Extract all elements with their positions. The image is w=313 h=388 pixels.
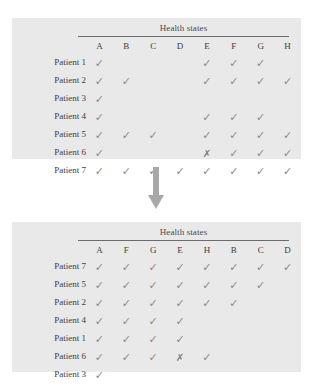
cell-empty <box>140 143 167 161</box>
column-header-e: E <box>167 242 194 257</box>
cell-check: ✓ <box>194 293 221 311</box>
row-label: Patient 3 <box>12 365 86 383</box>
cell-check: ✓ <box>86 329 113 347</box>
cross-icon: ✗ <box>203 149 211 159</box>
check-icon: ✓ <box>283 76 292 87</box>
table-body: Patient 1✓✓✓✓Patient 2✓✓✓✓✓✓Patient 3✓Pa… <box>12 53 301 179</box>
check-icon: ✓ <box>229 130 238 141</box>
check-icon: ✓ <box>122 352 131 363</box>
cell-check: ✓ <box>140 311 167 329</box>
cell-empty <box>247 293 274 311</box>
cell-empty <box>247 89 274 107</box>
cell-check: ✓ <box>86 257 113 275</box>
cell-empty <box>194 365 221 383</box>
cell-check: ✓ <box>274 71 301 89</box>
cell-check: ✓ <box>274 125 301 143</box>
check-icon: ✓ <box>256 130 265 141</box>
check-icon: ✓ <box>122 316 131 327</box>
cell-check: ✓ <box>247 107 274 125</box>
check-icon: ✓ <box>229 280 238 291</box>
check-icon: ✓ <box>175 262 184 273</box>
check-icon: ✓ <box>202 352 211 363</box>
cell-check: ✓ <box>194 53 221 71</box>
column-header-d: D <box>167 38 194 53</box>
cell-check: ✓ <box>86 89 113 107</box>
table-row: Patient 2✓✓✓✓✓✓ <box>12 293 301 311</box>
cell-check: ✓ <box>86 143 113 161</box>
column-header-g: G <box>247 38 274 53</box>
column-header-c: C <box>140 38 167 53</box>
check-icon: ✓ <box>95 112 104 123</box>
row-label: Patient 4 <box>12 107 86 125</box>
cell-check: ✓ <box>167 275 194 293</box>
cell-check: ✓ <box>113 311 140 329</box>
check-icon: ✓ <box>283 130 292 141</box>
table-row: Patient 6✓✓✓✗✓ <box>12 347 301 365</box>
check-icon: ✓ <box>256 112 265 123</box>
check-icon: ✓ <box>95 280 104 291</box>
matrix-after: Health states AFGEHBCD Patient 7✓✓✓✓✓✓✓✓… <box>12 222 301 372</box>
table-head: AFGEHBCD <box>12 242 301 257</box>
check-icon: ✓ <box>149 334 158 345</box>
check-icon: ✓ <box>149 280 158 291</box>
cell-empty <box>167 89 194 107</box>
table-row: Patient 3✓ <box>12 89 301 107</box>
column-header-a: A <box>86 242 113 257</box>
check-icon: ✓ <box>175 334 184 345</box>
table-row: Patient 2✓✓✓✓✓✓ <box>12 71 301 89</box>
cell-check: ✓ <box>274 143 301 161</box>
cell-empty <box>274 365 301 383</box>
cell-check: ✓ <box>140 257 167 275</box>
arrow-down-icon <box>0 165 313 215</box>
cell-check: ✓ <box>220 143 247 161</box>
check-icon: ✓ <box>229 58 238 69</box>
cell-check: ✓ <box>167 329 194 347</box>
check-icon: ✓ <box>175 298 184 309</box>
cell-empty <box>220 89 247 107</box>
cell-empty <box>274 89 301 107</box>
cell-check: ✓ <box>247 71 274 89</box>
cell-check: ✓ <box>220 257 247 275</box>
cell-empty <box>113 107 140 125</box>
cell-empty <box>247 311 274 329</box>
row-label: Patient 5 <box>12 125 86 143</box>
matrix-panel-before: Health states ABCDEFGH Patient 1✓✓✓✓Pati… <box>12 18 301 159</box>
check-icon: ✓ <box>283 148 292 159</box>
cell-check: ✓ <box>220 71 247 89</box>
matrix-before: Health states ABCDEFGH Patient 1✓✓✓✓Pati… <box>12 18 301 159</box>
cell-empty <box>274 329 301 347</box>
table-head: ABCDEFGH <box>12 38 301 53</box>
cell-check: ✓ <box>247 257 274 275</box>
cell-empty <box>274 311 301 329</box>
cell-check: ✓ <box>140 275 167 293</box>
cell-empty <box>113 365 140 383</box>
check-icon: ✓ <box>95 130 104 141</box>
check-icon: ✓ <box>202 280 211 291</box>
row-label-header <box>12 38 86 53</box>
row-label: Patient 4 <box>12 311 86 329</box>
check-icon: ✓ <box>95 334 104 345</box>
cell-check: ✓ <box>86 293 113 311</box>
check-icon: ✓ <box>95 148 104 159</box>
check-icon: ✓ <box>149 298 158 309</box>
cell-empty <box>167 143 194 161</box>
cell-check: ✓ <box>194 275 221 293</box>
check-icon: ✓ <box>95 76 104 87</box>
cell-check: ✓ <box>86 53 113 71</box>
check-icon: ✓ <box>229 76 238 87</box>
cell-check: ✓ <box>220 107 247 125</box>
cell-check: ✓ <box>220 53 247 71</box>
check-icon: ✓ <box>149 130 158 141</box>
check-icon: ✓ <box>175 280 184 291</box>
column-header-b: B <box>113 38 140 53</box>
column-header-f: F <box>220 38 247 53</box>
cell-empty <box>220 347 247 365</box>
cell-empty <box>140 89 167 107</box>
cell-check: ✓ <box>220 293 247 311</box>
check-icon: ✓ <box>202 76 211 87</box>
cell-check: ✓ <box>113 329 140 347</box>
check-icon: ✓ <box>149 352 158 363</box>
column-header-d: D <box>274 242 301 257</box>
cell-empty <box>167 107 194 125</box>
cell-empty <box>247 329 274 347</box>
